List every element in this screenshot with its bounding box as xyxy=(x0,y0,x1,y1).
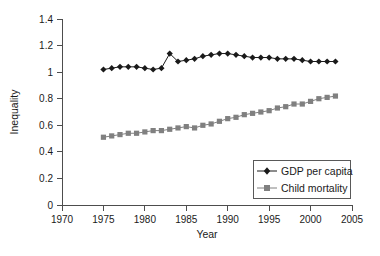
x-tick-label: 2000 xyxy=(299,214,322,225)
data-point-marker xyxy=(134,131,139,136)
y-axis-title: Inequality xyxy=(8,89,20,135)
data-point-marker xyxy=(283,104,288,109)
data-point-marker xyxy=(133,64,139,70)
data-point-marker xyxy=(300,101,305,106)
data-point-marker xyxy=(258,54,264,60)
data-point-marker xyxy=(208,52,214,58)
data-point-marker xyxy=(117,64,123,70)
series-gdp-per-capita xyxy=(100,50,338,72)
data-point-marker xyxy=(307,58,313,64)
data-point-marker xyxy=(101,135,106,140)
data-point-marker xyxy=(258,109,263,114)
data-point-marker xyxy=(225,50,231,56)
data-point-marker xyxy=(233,52,239,58)
data-point-marker xyxy=(100,66,106,72)
x-tick-label: 1995 xyxy=(258,214,281,225)
data-point-marker xyxy=(125,64,131,70)
y-tick-label: 1.4 xyxy=(39,14,53,25)
data-point-marker xyxy=(142,65,148,71)
data-series-layer xyxy=(100,50,338,139)
data-point-marker xyxy=(274,56,280,62)
x-tick-label: 1975 xyxy=(92,214,115,225)
x-axis-title: Year xyxy=(196,228,218,240)
x-axis-tick-labels: 19701975198019851990199520002005 xyxy=(51,214,364,225)
chart-legend[interactable]: GDP per capita Child mortality xyxy=(253,160,353,198)
y-tick-label: 0.8 xyxy=(39,93,53,104)
data-point-marker xyxy=(192,125,197,130)
data-point-marker xyxy=(158,65,164,71)
data-point-marker xyxy=(267,108,272,113)
y-tick-label: 0.2 xyxy=(39,173,53,184)
legend-label-gdp-per-capita: GDP per capita xyxy=(281,165,353,177)
data-point-marker xyxy=(142,129,147,134)
legend-label-child-mortality: Child mortality xyxy=(281,182,348,194)
data-point-marker xyxy=(225,116,230,121)
data-point-marker xyxy=(316,96,321,101)
data-point-marker xyxy=(151,128,156,133)
data-point-marker xyxy=(325,95,330,100)
x-axis-ticks xyxy=(62,205,352,211)
x-tick-label: 1980 xyxy=(134,214,157,225)
data-point-marker xyxy=(266,54,272,60)
x-tick-label: 1990 xyxy=(217,214,240,225)
data-point-marker xyxy=(200,123,205,128)
data-point-marker xyxy=(175,125,180,130)
data-point-marker xyxy=(333,93,338,98)
data-point-marker xyxy=(109,133,114,138)
data-point-marker xyxy=(200,53,206,59)
series-child-mortality xyxy=(101,93,338,139)
data-point-marker xyxy=(316,58,322,64)
data-point-marker xyxy=(233,115,238,120)
data-point-marker xyxy=(291,101,296,106)
data-point-marker xyxy=(126,131,131,136)
y-tick-label: 0 xyxy=(47,200,53,211)
data-point-marker xyxy=(275,105,280,110)
y-tick-label: 1.2 xyxy=(39,40,53,51)
data-point-marker xyxy=(159,128,164,133)
data-point-marker xyxy=(109,65,115,71)
data-point-marker xyxy=(216,50,222,56)
chart-container: 00.20.40.60.811.21.4 1970197519801985199… xyxy=(0,0,380,256)
y-tick-label: 1 xyxy=(47,67,53,78)
data-point-marker xyxy=(184,124,189,129)
data-point-marker xyxy=(217,119,222,124)
data-point-marker xyxy=(291,56,297,62)
data-point-marker xyxy=(308,99,313,104)
y-tick-label: 0.6 xyxy=(39,120,53,131)
y-tick-label: 0.4 xyxy=(39,146,53,157)
x-tick-label: 1970 xyxy=(51,214,74,225)
data-point-marker xyxy=(324,58,330,64)
data-point-marker xyxy=(150,66,156,72)
data-point-marker xyxy=(242,112,247,117)
data-point-marker xyxy=(117,132,122,137)
x-tick-label: 1985 xyxy=(175,214,198,225)
data-point-marker xyxy=(241,53,247,59)
data-point-marker xyxy=(299,57,305,63)
y-axis-ticks xyxy=(57,19,62,205)
x-tick-label: 2005 xyxy=(341,214,364,225)
legend-marker-square xyxy=(264,185,270,191)
data-point-marker xyxy=(167,127,172,132)
data-point-marker xyxy=(332,58,338,64)
data-point-marker xyxy=(249,54,255,60)
y-axis-tick-labels: 00.20.40.60.811.21.4 xyxy=(39,14,53,211)
data-point-marker xyxy=(183,57,189,63)
inequality-line-chart: 00.20.40.60.811.21.4 1970197519801985199… xyxy=(0,0,380,256)
data-point-marker xyxy=(283,56,289,62)
data-point-marker xyxy=(250,111,255,116)
data-point-marker xyxy=(191,56,197,62)
data-point-marker xyxy=(209,121,214,126)
